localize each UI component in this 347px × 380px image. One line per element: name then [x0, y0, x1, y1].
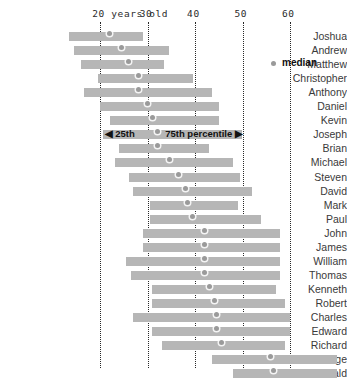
range-bar	[69, 32, 142, 41]
chart-row: Andrew	[0, 43, 347, 57]
chart-row: Richard	[0, 338, 347, 352]
row-label-david: David	[283, 184, 347, 198]
range-bar	[133, 187, 252, 196]
median-marker	[136, 73, 141, 78]
chart-row: Steven	[0, 170, 347, 184]
row-label-christopher: Christopher	[283, 71, 347, 85]
median-marker	[212, 298, 217, 303]
median-marker	[207, 284, 212, 289]
row-label-kevin: Kevin	[283, 113, 347, 127]
chart-row: Joshua	[0, 29, 347, 43]
median-marker	[214, 312, 219, 317]
axis-tick-60: 60	[282, 8, 295, 19]
row-label-richard: Richard	[283, 338, 347, 352]
row-label-brian: Brian	[283, 141, 347, 155]
range-bar	[143, 243, 280, 252]
range-bar	[119, 144, 209, 153]
range-bar	[150, 201, 238, 210]
range-bar	[129, 173, 240, 182]
percentile-range-chart: 20 years old30405060 JoshuaAndrewMatthew…	[0, 0, 347, 380]
chart-row: Paul	[0, 212, 347, 226]
chart-row: David	[0, 184, 347, 198]
annotation-25th: ◀ 25th	[105, 127, 135, 141]
median-marker	[202, 270, 207, 275]
median-marker	[202, 256, 207, 261]
row-label-anthony: Anthony	[283, 85, 347, 99]
row-label-kenneth: Kenneth	[283, 282, 347, 296]
chart-row: Christopher	[0, 71, 347, 85]
axis-tick-40: 40	[187, 8, 200, 19]
range-bar	[233, 369, 337, 378]
median-marker	[190, 214, 195, 219]
range-bar	[150, 215, 261, 224]
median-marker	[219, 340, 224, 345]
median-marker	[136, 87, 141, 92]
row-label-robert: Robert	[283, 296, 347, 310]
legend-label-median: median	[282, 57, 317, 68]
row-label-steven: Steven	[283, 170, 347, 184]
range-bar	[143, 229, 280, 238]
annotation-75th-percentile: 75th percentile ▶	[165, 127, 243, 141]
range-bar	[84, 88, 212, 97]
range-bar	[81, 60, 164, 69]
axis-tick-20: 20 years old	[92, 8, 168, 19]
chart-row: Edward	[0, 324, 347, 338]
chart-row: Mark	[0, 198, 347, 212]
row-label-andrew: Andrew	[283, 43, 347, 57]
chart-row: Michael	[0, 155, 347, 169]
range-bar	[152, 285, 275, 294]
median-marker	[176, 172, 181, 177]
range-bar	[115, 158, 234, 167]
chart-row: Charles	[0, 310, 347, 324]
axis-tick-30: 30	[140, 8, 153, 19]
chart-row: Daniel	[0, 99, 347, 113]
row-label-james: James	[283, 240, 347, 254]
range-bar	[100, 102, 219, 111]
chart-row: Joseph◀ 25th75th percentile ▶	[0, 127, 347, 141]
chart-row: Kevin	[0, 113, 347, 127]
axis-tick-50: 50	[235, 8, 248, 19]
row-label-john: John	[283, 226, 347, 240]
row-label-william: William	[283, 254, 347, 268]
median-marker	[271, 368, 276, 373]
row-label-michael: Michael	[283, 155, 347, 169]
median-marker	[183, 186, 188, 191]
legend-median-dot-icon	[271, 61, 276, 66]
range-bar	[152, 299, 285, 308]
median-marker	[202, 242, 207, 247]
range-bar	[110, 116, 219, 125]
range-bar	[212, 355, 338, 364]
chart-row: Anthony	[0, 85, 347, 99]
chart-row: James	[0, 240, 347, 254]
row-label-edward: Edward	[283, 324, 347, 338]
chart-row: William	[0, 254, 347, 268]
chart-row: George	[0, 352, 347, 366]
chart-row: Brian	[0, 141, 347, 155]
median-marker	[202, 228, 207, 233]
range-bar	[152, 327, 289, 336]
range-bar	[98, 74, 193, 83]
row-label-charles: Charles	[283, 310, 347, 324]
row-label-joseph: Joseph	[283, 127, 347, 141]
chart-row: Robert	[0, 296, 347, 310]
chart-row: Kenneth	[0, 282, 347, 296]
chart-row: John	[0, 226, 347, 240]
row-label-paul: Paul	[283, 212, 347, 226]
range-bar	[133, 313, 289, 322]
row-label-mark: Mark	[283, 198, 347, 212]
chart-row: Thomas	[0, 268, 347, 282]
row-label-daniel: Daniel	[283, 99, 347, 113]
chart-row: Donald	[0, 366, 347, 380]
row-label-joshua: Joshua	[283, 29, 347, 43]
row-label-thomas: Thomas	[283, 268, 347, 282]
median-marker	[214, 326, 219, 331]
